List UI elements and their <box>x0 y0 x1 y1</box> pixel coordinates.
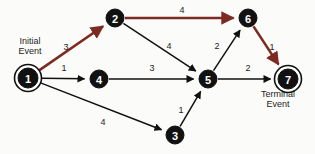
terminal-event-annotation: TerminalEvent <box>261 89 295 109</box>
edge-weight-1-2: 3 <box>63 42 68 52</box>
node-2[interactable]: 2 <box>106 9 124 27</box>
edge-2-to-5 <box>123 23 196 71</box>
edge-weight-4-5: 3 <box>149 63 154 73</box>
node-5[interactable]: 5 <box>199 70 217 88</box>
terminal-event-line1: Terminal <box>261 89 295 99</box>
edge-weight-6-7: 1 <box>269 42 274 52</box>
node-4[interactable]: 4 <box>90 70 108 88</box>
initial-event-line2: Event <box>18 46 42 56</box>
edge-weight-1-3: 4 <box>100 117 105 127</box>
node-1[interactable]: 1 <box>15 65 42 92</box>
edges-layer <box>39 18 278 130</box>
annotations-layer: InitialEventTerminalEvent <box>18 36 295 109</box>
network-graph: 1234567 3411342241 InitialEventTerminalE… <box>0 0 315 154</box>
edge-weight-3-5: 1 <box>178 105 183 115</box>
terminal-event-line2: Event <box>266 99 290 109</box>
edge-weight-2-6: 4 <box>179 5 184 15</box>
initial-event-line1: Initial <box>19 36 40 46</box>
edge-1-to-2 <box>39 26 103 70</box>
edge-weight-2-5: 4 <box>166 41 171 51</box>
edge-6-to-7 <box>253 26 278 64</box>
node-6[interactable]: 6 <box>239 9 257 27</box>
edge-weight-1-4: 1 <box>61 63 66 73</box>
node-3[interactable]: 3 <box>166 126 184 144</box>
initial-event-annotation: InitialEvent <box>18 36 42 56</box>
edge-weight-5-7: 2 <box>245 63 250 73</box>
nodes-layer: 1234567 <box>15 9 302 144</box>
edge-1-to-4 <box>41 78 84 79</box>
network-diagram-canvas: 1234567 3411342241 InitialEventTerminalE… <box>0 0 315 154</box>
edge-weight-5-6: 2 <box>214 41 219 51</box>
